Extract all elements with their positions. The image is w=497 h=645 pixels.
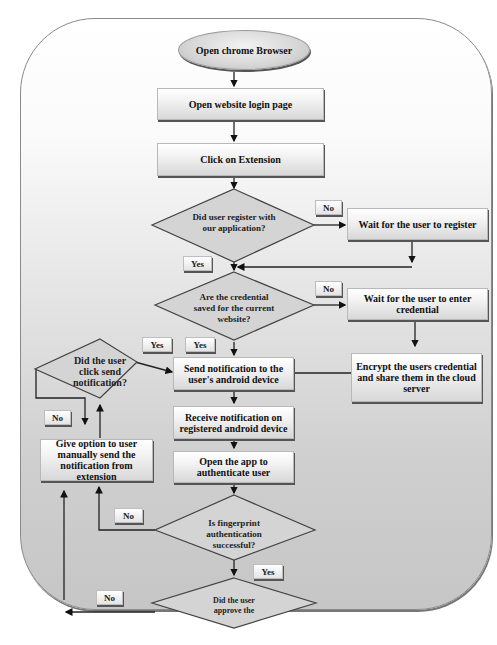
step-wait-credential: Wait for the user to enter credential [347, 288, 488, 320]
decision-approve: Did the user approve the [204, 596, 264, 618]
edge-label-registered-no: No [315, 200, 342, 215]
step-give-option: Give option to user manually send the no… [40, 439, 153, 481]
edge-label-fingerprint-yes: Yes [253, 564, 283, 579]
step-receive-notification: Receive notification on registered andro… [173, 406, 294, 439]
step-send-notification: Send notification to the user's android … [173, 357, 294, 390]
decision-fingerprint: Is fingerprint authentication successful… [196, 518, 272, 551]
step-open-app: Open the app to authenticate user [173, 451, 294, 483]
step-open-login-page: Open website login page [157, 88, 324, 120]
edge-label-fingerprint-no: No [114, 508, 143, 523]
decision-click-send: Did the user click send notification? [72, 355, 128, 388]
step-click-extension: Click on Extension [157, 143, 324, 176]
edge-label-click-send-yes: Yes [142, 337, 172, 352]
decision-credential-saved: Are the credential saved for the current… [190, 292, 278, 325]
decision-registered: Did user register with our application? [192, 212, 276, 245]
edge-label-saved-no: No [315, 281, 342, 296]
edge-label-saved-yes: Yes [185, 337, 215, 352]
edge-label-approve-no: No [96, 590, 123, 605]
start-oval-open-chrome: Open chrome Browser [178, 30, 310, 70]
step-encrypt-share: Encrypt the users credential and share t… [351, 353, 482, 402]
edge-label-click-send-no: No [44, 410, 71, 425]
start-text: Open chrome Browser [196, 45, 292, 56]
edge-label-registered-yes: Yes [183, 256, 212, 271]
step-wait-register: Wait for the user to register [347, 208, 488, 240]
